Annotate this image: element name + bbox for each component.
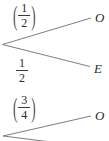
tree1-top-outcome-label: O bbox=[95, 11, 104, 24]
tree2-bottom-branch-line bbox=[3, 136, 47, 141]
fraction-three-quarters: 3 4 bbox=[18, 94, 30, 121]
fraction-numerator: 1 bbox=[18, 2, 30, 16]
fraction-denominator: 2 bbox=[19, 71, 25, 84]
tree1-bottom-branch-probability-label: 1 2 bbox=[15, 53, 29, 84]
fraction-numerator: 1 bbox=[16, 57, 28, 71]
fraction-numerator: 3 bbox=[18, 94, 30, 108]
right-paren: ) bbox=[31, 2, 35, 30]
tree1-top-branch-probability-label: ( 1 2 ) bbox=[13, 2, 36, 29]
right-paren: ) bbox=[31, 94, 35, 122]
left-paren: ( bbox=[13, 94, 17, 122]
probability-tree-diagram: ( 1 2 ) 1 2 O E ( 3 4 ) O bbox=[0, 0, 109, 141]
fraction-one-half: 1 2 bbox=[16, 57, 28, 84]
tree2-top-branch-probability-label: ( 3 4 ) bbox=[13, 94, 36, 121]
tree2-top-outcome-label: O bbox=[95, 109, 104, 122]
fraction-one-half: 1 2 bbox=[18, 2, 30, 29]
left-paren: ( bbox=[13, 2, 17, 30]
fraction-denominator: 2 bbox=[21, 16, 27, 29]
tree1-bottom-outcome-label: E bbox=[94, 62, 102, 75]
fraction-denominator: 4 bbox=[21, 108, 27, 121]
